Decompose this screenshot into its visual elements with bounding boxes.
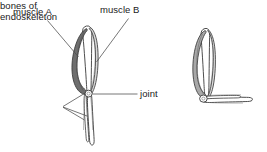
joint-marker-inner-extended (87, 92, 90, 95)
joint-marker-inner-flexed (202, 97, 205, 100)
label-bones-of-endoskeleton: bones of endoskeleton (0, 0, 267, 22)
label-joint: joint (140, 88, 158, 99)
extended-limb-panel (72, 26, 98, 145)
leader-line-muscle-a (48, 21, 79, 58)
diagram-canvas: muscle A muscle B joint bones of endoske… (0, 0, 267, 152)
upper-bone-extended (82, 26, 91, 96)
label-bones-line-1: bones of (0, 0, 267, 11)
flexed-limb-panel (193, 29, 253, 104)
leader-line-muscle-b (97, 19, 129, 63)
leader-line-bones-1 (63, 93, 86, 107)
muscle-skeleton-diagram (0, 0, 267, 152)
label-bones-line-2: endoskeleton (0, 11, 267, 22)
